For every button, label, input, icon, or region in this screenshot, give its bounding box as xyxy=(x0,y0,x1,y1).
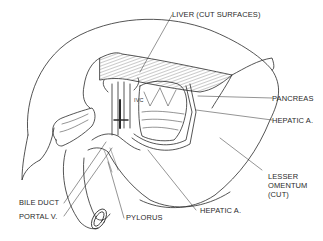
label-lesser-omentum-line3: (CUT) xyxy=(268,190,289,199)
label-lesser-omentum-line1: LESSER xyxy=(268,172,298,181)
label-pancreas: PANCREAS xyxy=(272,94,314,103)
liver-cut-surface xyxy=(100,53,232,92)
label-bile-duct: BILE DUCT xyxy=(19,198,59,207)
liver-outline xyxy=(27,19,278,207)
duodenum-opening xyxy=(88,206,109,231)
anatomy-figure: LIVER (CUT SURFACES) PANCREAS HEPATIC A.… xyxy=(0,0,323,241)
pancreas-region xyxy=(139,81,187,141)
stomach xyxy=(108,152,230,207)
label-portal-vein: PORTAL V. xyxy=(19,212,57,221)
label-ivc: IVC xyxy=(134,96,143,105)
label-pylorus: PYLORUS xyxy=(126,213,163,222)
label-lesser-omentum-line2: OMENTUM xyxy=(268,181,307,190)
label-liver-cut-surfaces: LIVER (CUT SURFACES) xyxy=(172,10,261,19)
label-hepatic-artery-bottom: HEPATIC A. xyxy=(200,206,241,215)
label-hepatic-artery-right: HEPATIC A. xyxy=(272,116,313,125)
